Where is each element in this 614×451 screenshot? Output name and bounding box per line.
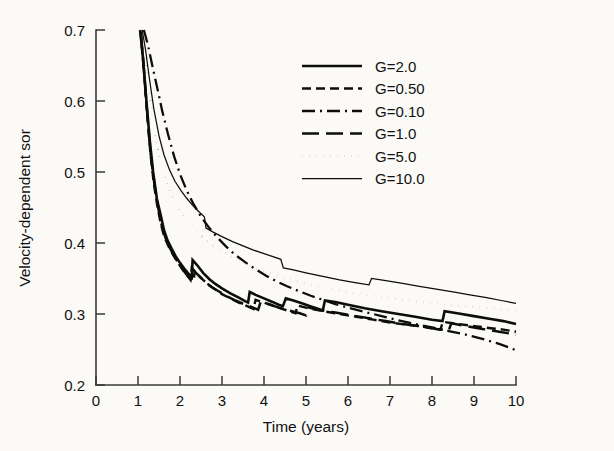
y-axis-ticks bbox=[96, 30, 105, 385]
y-axis-title: Velocity-dependent sor bbox=[16, 129, 33, 287]
y-tick-label: 0.2 bbox=[64, 377, 85, 394]
x-axis-title: Time (years) bbox=[263, 418, 349, 435]
curve-series-0 bbox=[140, 30, 516, 324]
x-axis-ticks bbox=[96, 376, 516, 385]
curve-series-1 bbox=[141, 31, 516, 331]
curve-series-4 bbox=[142, 30, 516, 310]
y-tick-label: 0.5 bbox=[64, 164, 85, 181]
chart-figure: 0.20.30.40.50.60.7 012345678910 Velocity… bbox=[0, 0, 614, 451]
curve-series-3 bbox=[141, 33, 516, 335]
y-tick-label: 0.6 bbox=[64, 93, 85, 110]
x-tick-label: 2 bbox=[176, 392, 184, 409]
x-tick-label: 5 bbox=[302, 392, 310, 409]
legend-label: G=0.10 bbox=[375, 103, 425, 120]
legend-label: G=5.0 bbox=[375, 148, 416, 165]
line-chart: 0.20.30.40.50.60.7 012345678910 Velocity… bbox=[0, 0, 614, 451]
x-tick-label: 0 bbox=[92, 392, 100, 409]
x-tick-label: 10 bbox=[508, 392, 525, 409]
x-tick-label: 1 bbox=[134, 392, 142, 409]
x-tick-label: 3 bbox=[218, 392, 226, 409]
chart-legend: G=2.0G=0.50G=0.10G=1.0G=5.0G=10.0 bbox=[302, 58, 425, 188]
x-tick-label: 9 bbox=[470, 392, 478, 409]
x-tick-label: 8 bbox=[428, 392, 436, 409]
legend-label: G=2.0 bbox=[375, 58, 416, 75]
y-tick-label: 0.4 bbox=[64, 235, 85, 252]
data-curves bbox=[140, 30, 516, 350]
legend-label: G=1.0 bbox=[375, 125, 416, 142]
y-tick-label: 0.7 bbox=[64, 22, 85, 39]
y-axis-tick-labels: 0.20.30.40.50.60.7 bbox=[64, 22, 85, 394]
x-tick-label: 6 bbox=[344, 392, 352, 409]
x-tick-label: 4 bbox=[260, 392, 268, 409]
x-tick-label: 7 bbox=[386, 392, 394, 409]
x-axis-tick-labels: 012345678910 bbox=[92, 392, 525, 409]
curve-series-2 bbox=[144, 30, 516, 350]
legend-label: G=10.0 bbox=[375, 170, 425, 187]
curve-series-5 bbox=[142, 30, 516, 303]
legend-label: G=0.50 bbox=[375, 80, 425, 97]
y-tick-label: 0.3 bbox=[64, 306, 85, 323]
